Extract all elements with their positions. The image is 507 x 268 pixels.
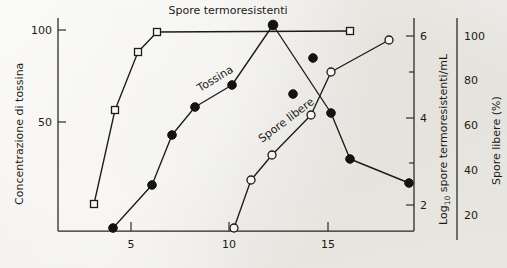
tick-label-x-5: 5 [128, 238, 135, 251]
data-point [346, 155, 355, 164]
axis-right-inner [406, 18, 414, 231]
tick-label-left-50: 50 [38, 116, 52, 129]
data-point [327, 109, 336, 118]
data-point [268, 151, 276, 159]
data-point [247, 176, 255, 184]
tick-label-x-15: 15 [321, 238, 335, 251]
chart-figure: 100 50 5 10 15 6 4 2 100 80 60 40 20 Con… [0, 0, 507, 268]
axis-title-left: Concentrazione di tossina [13, 63, 26, 205]
tick-labels-bottom: 5 10 15 [128, 238, 336, 251]
tick-label-rout-80: 80 [464, 74, 478, 87]
data-point [230, 224, 238, 232]
data-point [228, 81, 237, 90]
data-point [112, 107, 119, 114]
data-point [154, 29, 161, 36]
data-point [307, 111, 315, 119]
unconnected-data-points [289, 54, 318, 99]
tick-label-left-100: 100 [31, 24, 52, 37]
data-point [109, 224, 118, 233]
data-point [148, 181, 157, 190]
data-point [191, 103, 200, 112]
tick-labels-right-inner: 6 4 2 [420, 30, 427, 212]
series-label-spore-termoresistenti: Spore termoresistenti [168, 4, 287, 17]
series-spore-libere [230, 36, 393, 232]
data-point [135, 49, 142, 56]
tick-label-rout-60: 60 [464, 119, 478, 132]
tick-labels-right-outer: 100 80 60 40 20 [464, 30, 485, 222]
data-point [309, 54, 318, 63]
data-point [327, 68, 335, 76]
data-point [91, 201, 98, 208]
data-point [347, 28, 354, 35]
series-label-tossina: Tossina [194, 63, 236, 95]
series-label-spore-libere: Spore libere [256, 95, 317, 145]
tick-label-rin-6: 6 [420, 30, 427, 43]
data-point [405, 179, 414, 188]
chart-plot-area: 100 50 5 10 15 6 4 2 100 80 60 40 20 Con… [0, 0, 507, 268]
axis-left [58, 18, 66, 231]
axis-title-right-outer: Spore libere (%) [490, 96, 503, 185]
series-line-tossina [113, 25, 409, 228]
tick-label-rin-4: 4 [420, 112, 427, 125]
data-point [168, 131, 177, 140]
data-point [385, 36, 393, 44]
tick-label-rin-2: 2 [420, 199, 427, 212]
tick-labels-left: 100 50 [31, 24, 52, 129]
tick-label-rout-40: 40 [464, 164, 478, 177]
tick-label-rout-100: 100 [464, 30, 485, 43]
data-point [289, 90, 298, 99]
tick-label-rout-20: 20 [464, 209, 478, 222]
tick-label-x-10: 10 [222, 238, 236, 251]
data-point [268, 20, 278, 30]
axis-title-right-inner: Log10 spore termoresistenti/mL [437, 53, 452, 225]
